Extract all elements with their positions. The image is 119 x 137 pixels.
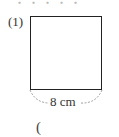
side-length-label: 8 cm (49, 94, 77, 110)
dimension-arc (0, 0, 119, 137)
answer-parenthesis: ( (36, 119, 41, 136)
